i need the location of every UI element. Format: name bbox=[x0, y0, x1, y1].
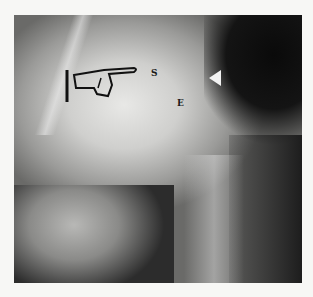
pointing-hand-icon bbox=[64, 60, 144, 105]
label-s: S bbox=[151, 68, 158, 78]
arrowhead-icon bbox=[209, 69, 223, 87]
label-e: E bbox=[177, 98, 184, 108]
xray-image: S E bbox=[14, 15, 302, 283]
